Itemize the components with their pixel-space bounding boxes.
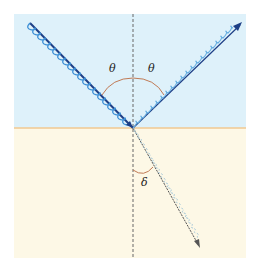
reflection-refraction-diagram: θ θ δ <box>0 0 262 271</box>
lower-medium <box>14 128 246 258</box>
delta-label: δ <box>141 176 148 189</box>
upper-medium <box>14 14 246 128</box>
theta-incident-label: θ <box>109 62 116 75</box>
theta-reflected-label: θ <box>148 62 155 75</box>
